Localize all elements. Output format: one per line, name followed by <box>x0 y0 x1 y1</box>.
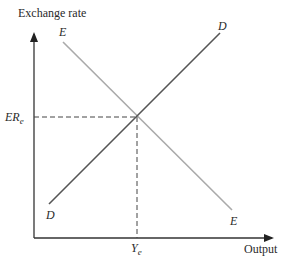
e-curve-label-top: E <box>58 25 67 39</box>
d-curve-label-top: D <box>217 19 227 33</box>
y-axis-label: Exchange rate <box>18 6 86 20</box>
equilibrium-output-label: Ye <box>131 241 142 257</box>
equilibrium-exchange-rate-label: ERe <box>4 110 24 126</box>
d-curve-label-bottom: D <box>45 208 55 222</box>
e-curve-label-bottom: E <box>229 214 238 228</box>
x-axis-label: Output <box>244 242 278 256</box>
e-curve <box>63 42 232 210</box>
exchange-rate-output-diagram: Exchange rate Output E E D D ERe Ye <box>0 0 286 269</box>
d-curve <box>49 33 220 204</box>
